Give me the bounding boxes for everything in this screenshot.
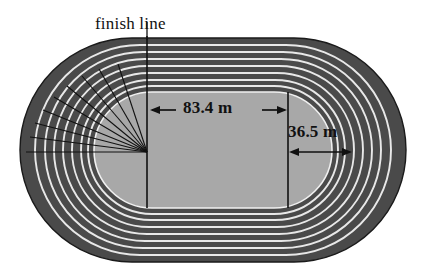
curve-radius-label: 36.5 m <box>288 122 337 142</box>
track-diagram: finish line 83.4 m 36.5 m <box>0 0 426 280</box>
finish-line-label: finish line <box>95 14 166 34</box>
straight-length-label: 83.4 m <box>183 98 232 118</box>
track-oval-graphic <box>0 0 426 280</box>
